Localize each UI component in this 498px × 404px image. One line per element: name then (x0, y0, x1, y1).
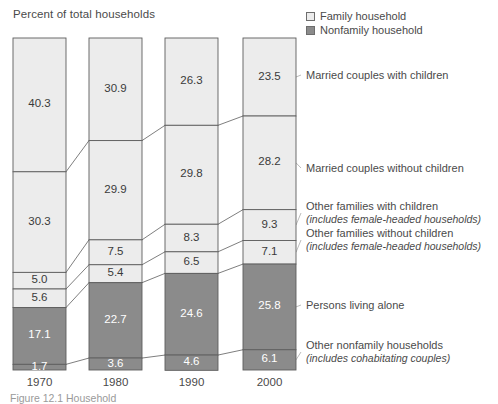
figure-caption: Figure 12.1 Household (10, 392, 116, 404)
category-label-title: Persons living alone (306, 299, 404, 311)
bar-value-label: 8.3 (165, 231, 218, 243)
bar-value-label: 3.6 (89, 357, 142, 369)
bar-value-label: 30.3 (13, 215, 66, 227)
bar-value-label: 17.1 (13, 328, 66, 340)
category-label-subtitle: (includes cohabitating couples) (306, 352, 450, 365)
bar-value-label: 28.2 (243, 155, 296, 167)
bar-value-label: 5.0 (13, 273, 66, 285)
x-axis-tick-2000: 2000 (240, 376, 300, 388)
category-label-title: Married couples with children (306, 69, 448, 81)
x-axis-tick-1980: 1980 (86, 376, 146, 388)
category-label-5: Persons living alone (306, 299, 404, 312)
category-label-1: Married couples with children (306, 69, 448, 82)
category-label-subtitle: (includes female-headed households) (306, 240, 481, 253)
bar-value-label: 25.8 (243, 299, 296, 311)
category-label-subtitle: (includes female-headed households) (306, 213, 481, 226)
bar-value-label: 5.6 (13, 291, 66, 303)
category-label-6: Other nonfamily households(includes coha… (306, 339, 450, 365)
category-label-title: Married couples without children (306, 162, 464, 174)
bar-value-label: 26.3 (165, 74, 218, 86)
bar-value-label: 40.3 (13, 97, 66, 109)
bar-value-label: 29.8 (165, 167, 218, 179)
bar-value-label: 6.1 (243, 352, 296, 364)
x-axis-tick-1990: 1990 (162, 376, 222, 388)
category-label-title: Other nonfamily households (306, 339, 443, 351)
bar-value-label: 7.1 (243, 245, 296, 257)
bar-value-label: 30.9 (89, 82, 142, 94)
category-label-title: Other families with children (306, 200, 438, 212)
bar-value-label: 9.3 (243, 218, 296, 230)
category-label-3: Other families with children(includes fe… (306, 200, 481, 226)
bar-value-label: 29.9 (89, 183, 142, 195)
bar-value-label: 23.5 (243, 70, 296, 82)
bar-value-label: 22.7 (89, 313, 142, 325)
category-label-title: Other families without children (306, 227, 453, 239)
bar-value-label: 5.4 (89, 266, 142, 278)
bar-value-label: 7.5 (89, 245, 142, 257)
bar-value-label: 6.5 (165, 255, 218, 267)
bar-value-label: 1.7 (13, 360, 66, 372)
category-label-2: Married couples without children (306, 162, 464, 175)
bar-value-label: 24.6 (165, 307, 218, 319)
bar-value-label: 4.6 (165, 355, 218, 367)
x-axis-tick-1970: 1970 (10, 376, 70, 388)
category-label-4: Other families without children(includes… (306, 227, 481, 253)
